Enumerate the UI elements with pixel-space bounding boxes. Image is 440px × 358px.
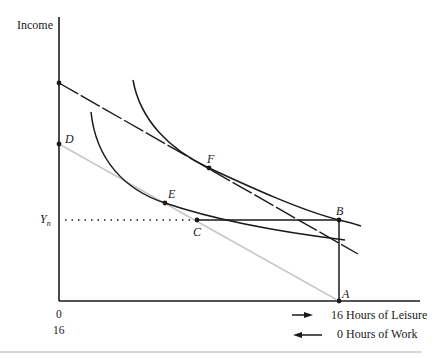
point-dot-A [337,299,342,304]
x-origin-leisure-label: 0 [56,309,62,321]
point-label-B: B [336,205,343,217]
legend-leisure-label: 16 Hours of Leisure [331,309,427,321]
indifference-curve-lower [91,112,345,240]
point-label-C: C [193,226,201,238]
point-label-E: E [168,188,175,200]
yn-label-main: Y [40,212,47,226]
point-dot-C [195,218,200,223]
point-label-A: A [342,288,349,300]
yn-label-subscript: n [47,219,51,228]
point-dot-D [57,142,62,147]
point-label-D: D [65,133,74,145]
diagram-canvas [0,0,440,358]
budget-line-original [59,144,339,301]
point-label-F: F [207,153,214,165]
arrow-left-icon [293,332,322,338]
point-dot-dashed-intercept [57,81,62,86]
y-axis-label: Income [17,19,53,31]
x-origin-work-label: 16 [53,325,65,337]
point-dot-E [163,201,168,206]
point-dot-F [207,166,212,171]
bottom-separator [0,351,422,353]
yn-label: Yn [40,213,51,228]
legend-work-label: 0 Hours of Work [337,328,417,340]
point-dot-B [337,218,342,223]
arrow-right-icon [292,312,313,318]
